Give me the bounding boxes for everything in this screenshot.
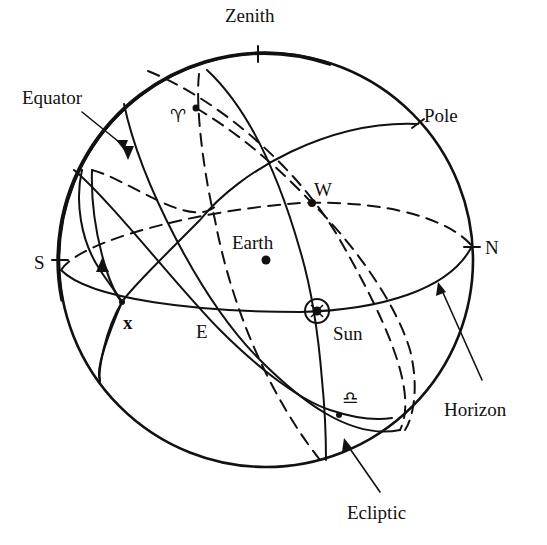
horizon-pointer-line [440,286,482,380]
sphere-limb-emphasis [58,53,330,300]
equator-label: Equator [22,88,82,107]
west-label: W [314,180,332,199]
earth-point [262,256,271,265]
east-label: E [196,322,208,341]
equator-direction-arrow [122,146,134,160]
libra-point [336,412,342,418]
x-point [119,299,125,305]
earth-label: Earth [232,233,273,252]
aries-dashed-circle [198,74,320,460]
horizon-label: Horizon [444,400,506,419]
x-label: x [123,313,133,332]
celestial-sphere-diagram [0,0,547,545]
pole-label: Pole [424,106,458,125]
ecliptic-label: Ecliptic [347,503,406,522]
left-ecliptic-arc [79,170,122,302]
equator-front [124,104,400,432]
aries-point [193,105,200,112]
south-label: S [34,253,45,272]
north-label: N [485,238,499,257]
sun-label: Sun [333,324,363,343]
ecliptic-pointer-line [346,443,380,492]
libra-icon: ♎ [342,389,358,407]
zenith-label: Zenith [225,6,275,25]
aries-icon: ♈ [170,107,186,125]
ecliptic-lower-arc [74,170,392,419]
horizon-arrowhead [436,282,446,296]
west-point [308,199,316,207]
